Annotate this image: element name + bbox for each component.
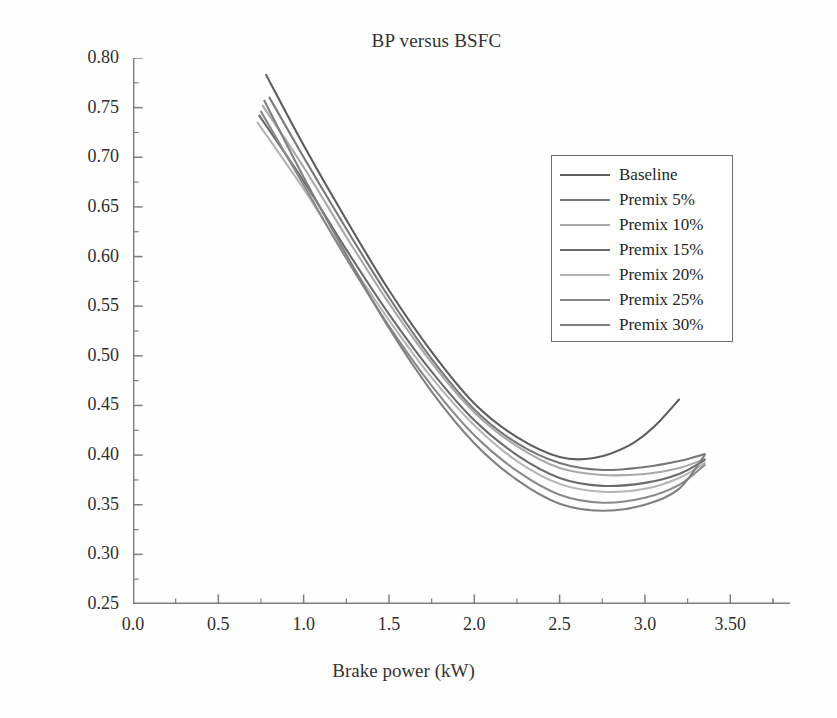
y-tick-label: 0.55 xyxy=(55,295,119,316)
legend-box: BaselinePremix 5%Premix 10%Premix 15%Pre… xyxy=(551,155,733,342)
legend-item: Premix 20% xyxy=(552,262,732,287)
y-tick-label-group: 0.250.300.350.400.450.500.550.600.650.70… xyxy=(55,58,119,604)
legend-label: Premix 30% xyxy=(619,316,704,333)
chart-title: BP versus BSFC xyxy=(18,30,837,52)
x-axis-label: Brake power (kW) xyxy=(0,660,822,682)
legend-label: Premix 10% xyxy=(619,216,704,233)
legend-item: Premix 10% xyxy=(552,212,732,237)
x-tick-label: 1.5 xyxy=(354,614,424,635)
x-tick-label: 3.50 xyxy=(695,614,765,635)
x-tick-label: 2.5 xyxy=(525,614,595,635)
legend-label: Premix 25% xyxy=(619,291,704,308)
x-tick-label: 0.0 xyxy=(98,614,168,635)
y-tick-label: 0.25 xyxy=(55,593,119,614)
legend-swatch-line-icon xyxy=(560,199,610,201)
x-tick-label: 0.5 xyxy=(183,614,253,635)
y-tick-label: 0.60 xyxy=(55,246,119,267)
x-tick-label-group: 0.00.51.01.52.02.53.03.50 xyxy=(133,614,790,644)
y-tick-label: 0.70 xyxy=(55,146,119,167)
y-tick-label: 0.80 xyxy=(55,47,119,68)
legend-swatch-line-icon xyxy=(560,174,610,176)
y-tick-label: 0.75 xyxy=(55,97,119,118)
legend-label: Premix 5% xyxy=(619,191,695,208)
legend-swatch-line-icon xyxy=(560,299,610,301)
y-tick-label: 0.35 xyxy=(55,494,119,515)
y-tick-label: 0.50 xyxy=(55,345,119,366)
x-tick-label: 2.0 xyxy=(439,614,509,635)
x-tick-label: 1.0 xyxy=(269,614,339,635)
figure-canvas: BP versus BSFC Break specific fuel consu… xyxy=(0,0,837,718)
legend-item: Premix 30% xyxy=(552,312,732,337)
legend-swatch-line-icon xyxy=(560,224,610,226)
legend-swatch-line-icon xyxy=(560,324,610,326)
y-tick-label: 0.45 xyxy=(55,394,119,415)
legend-label: Premix 15% xyxy=(619,241,704,258)
y-axis-label: Break specific fuel consumption (kg/kWh) xyxy=(0,0,26,68)
y-tick-label: 0.65 xyxy=(55,196,119,217)
y-tick-label: 0.40 xyxy=(55,444,119,465)
legend-label: Premix 20% xyxy=(619,266,704,283)
x-tick-label: 3.0 xyxy=(610,614,680,635)
legend-swatch-line-icon xyxy=(560,274,610,276)
legend-item: Premix 25% xyxy=(552,287,732,312)
legend-label: Baseline xyxy=(619,166,678,183)
legend-item: Baseline xyxy=(552,162,732,187)
legend-item: Premix 5% xyxy=(552,187,732,212)
legend-item: Premix 15% xyxy=(552,237,732,262)
y-tick-label: 0.30 xyxy=(55,543,119,564)
legend-swatch-line-icon xyxy=(560,249,610,251)
